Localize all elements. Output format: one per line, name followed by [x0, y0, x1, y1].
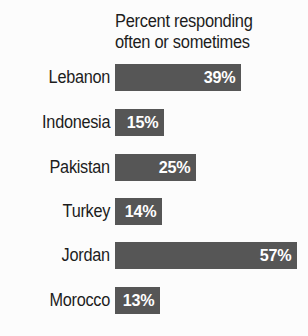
category-label: Pakistan: [50, 154, 110, 181]
chart-row: Turkey 14%: [0, 198, 308, 225]
bar: 15%: [115, 109, 164, 136]
chart-row: Lebanon 39%: [0, 64, 308, 91]
bar: 25%: [115, 154, 196, 181]
chart-row: Morocco 13%: [0, 287, 308, 314]
category-label: Indonesia: [42, 109, 110, 136]
chart-row: Indonesia 15%: [0, 109, 308, 136]
bar-value-label: 39%: [203, 64, 235, 91]
bar-value-label: 13%: [122, 287, 154, 314]
chart-title: Percent responding often or sometimes: [115, 11, 294, 53]
bar: 14%: [115, 198, 162, 225]
bar-chart-figure: Percent responding often or sometimes Le…: [0, 0, 308, 336]
category-label: Jordan: [62, 242, 110, 269]
category-label: Turkey: [63, 198, 110, 225]
category-label: Morocco: [50, 287, 110, 314]
category-label: Lebanon: [49, 64, 110, 91]
bar-value-label: 25%: [158, 154, 190, 181]
bar: 39%: [115, 64, 241, 91]
bar: 57%: [115, 242, 297, 269]
bar-value-label: 15%: [126, 109, 158, 136]
chart-row: Jordan 57%: [0, 242, 308, 269]
bar: 13%: [115, 287, 160, 314]
bar-value-label: 57%: [259, 242, 291, 269]
bar-value-label: 14%: [124, 198, 156, 225]
chart-row: Pakistan 25%: [0, 154, 308, 181]
chart-plot-area: Lebanon 39% Indonesia 15% Pakistan 25% T…: [0, 64, 308, 334]
